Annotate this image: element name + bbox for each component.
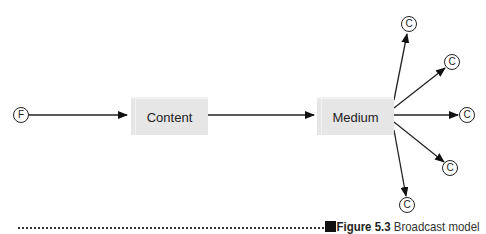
edge-medium-c1 (394, 34, 407, 100)
source-node-f: F (13, 107, 29, 123)
caption-dotted-rule (18, 227, 324, 229)
medium-box: Medium (317, 97, 394, 135)
edge-medium-c5 (394, 130, 406, 196)
consumer-node-c3: C (459, 107, 475, 123)
figure-caption: Figure 5.3 Broadcast model (337, 219, 480, 234)
edge-medium-c4 (394, 122, 444, 162)
caption-square-marker (325, 221, 336, 232)
figure-number: Figure 5.3 (337, 219, 391, 234)
consumer-node-c1: C (401, 16, 417, 32)
edge-medium-c2 (394, 68, 445, 108)
content-box: Content (131, 97, 208, 135)
consumer-node-c5: C (399, 197, 415, 213)
consumer-node-c2: C (444, 54, 460, 70)
figure-title: Broadcast model (394, 219, 480, 234)
consumer-node-c4: C (442, 160, 458, 176)
